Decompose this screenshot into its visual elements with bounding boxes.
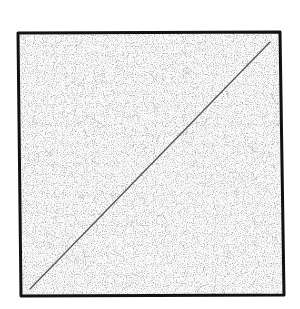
paper-texture [0,0,300,309]
sketch-canvas [0,0,300,309]
